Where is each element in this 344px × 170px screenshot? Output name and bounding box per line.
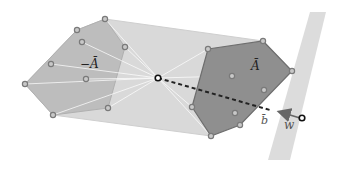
neg-a-bar-label: −Ā (80, 56, 99, 71)
b-bar-label: b̄ (261, 114, 268, 127)
a-bar-label: Ā (250, 58, 260, 73)
a-polygon (192, 41, 292, 136)
diagram-svg: −Ā Ā b̄ w (0, 0, 344, 170)
w-point (299, 115, 305, 121)
convex-hull-diagram: −Ā Ā b̄ w (0, 0, 344, 170)
w-label: w (284, 118, 295, 132)
origin-point (155, 75, 161, 81)
